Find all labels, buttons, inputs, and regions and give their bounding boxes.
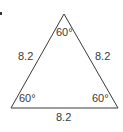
angle-label-bottom-right: 60° — [92, 93, 109, 104]
side-label-bottom: 8.2 — [56, 112, 71, 123]
side-label-right: 8.2 — [95, 51, 110, 62]
angle-label-bottom-left: 60° — [19, 93, 36, 104]
angle-label-apex: 60° — [56, 27, 73, 38]
side-label-left: 8.2 — [18, 51, 33, 62]
